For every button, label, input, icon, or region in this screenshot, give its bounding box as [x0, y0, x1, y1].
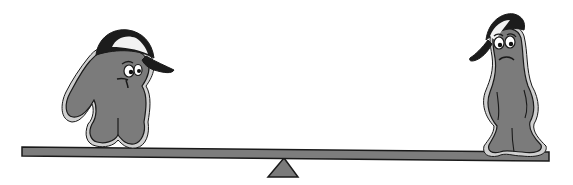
- left-character-pupil: [137, 69, 141, 73]
- fulcrum-triangle: [268, 158, 298, 177]
- seesaw-illustration: [0, 0, 573, 185]
- left-character: [62, 30, 174, 148]
- right-character-pupil: [509, 42, 513, 46]
- right-character-eye: [494, 37, 504, 49]
- seesaw-plank: [22, 147, 549, 161]
- right-character: [470, 14, 547, 157]
- left-character-pupil: [129, 70, 133, 74]
- right-character-cap-brim: [470, 40, 492, 61]
- right-character-eye: [505, 36, 515, 48]
- right-character-pupil: [498, 43, 502, 47]
- left-character-body: [66, 48, 149, 144]
- seesaw-scene: [0, 0, 573, 185]
